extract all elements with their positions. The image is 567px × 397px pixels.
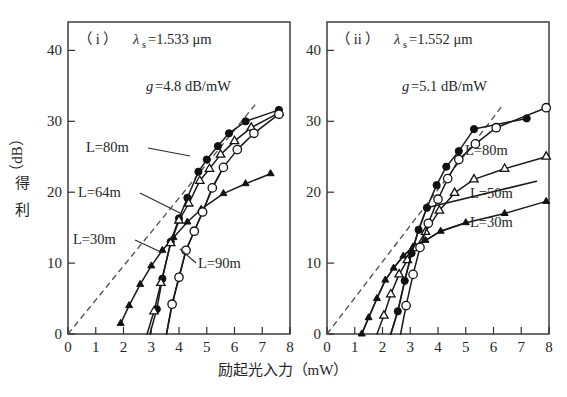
panel-2-xtick-1: 1 [351,339,359,355]
panel-1-y-ticks [68,50,75,334]
panel-2-slope-value: =5.1 dB/mW [411,78,487,94]
panel-2-lambda-subscript: s [403,39,407,50]
panel-1-lambda-subscript: s [142,39,146,50]
panel-1-xtick-4: 4 [175,339,183,355]
panel-2-frame [327,22,549,334]
panel-2-ytick-10: 10 [306,255,321,271]
panel-1-ytick-10: 10 [47,255,62,271]
panel-1-xtick-7: 7 [259,339,267,355]
panel-2-xtick-2: 2 [379,339,387,355]
panel-2-annotation-L80m: L=80m [465,142,509,158]
panel-1-ytick-0: 0 [55,326,63,342]
panel-2-y-ticks [327,50,334,334]
panel-1-gain-slope-line [68,103,257,334]
panel-1-id: （ i ） [78,31,117,47]
panel-1-annotation-L64m: L=64m [78,184,122,200]
panel-1-annotation-L90m: L=90m [198,255,242,271]
panel-1-leader-L80m [148,148,190,156]
panel-1-ytick-30: 30 [47,113,62,129]
panel-2-xtick-4: 4 [434,339,442,355]
panel-1-leader-L64m [140,193,182,214]
panel-1-series-L90m [167,110,284,334]
panel-2-xtick-3: 3 [407,339,415,355]
panel-2-annotation-L50m: L=50m [470,185,514,201]
panel-2-lambda-symbol: λ [393,31,400,47]
panel-1-ytick-20: 20 [47,184,62,200]
panel-1-series-L80m [147,108,283,334]
y-axis-title-unit: （dB） [9,131,25,179]
panel-1-xtick-5: 5 [203,339,211,355]
panel-2: 0 10 20 30 40 0 1 2 3 4 5 6 7 [306,22,553,355]
panel-1-xtick-8: 8 [286,339,294,355]
panel-1-slope-value: =4.8 dB/mW [155,78,231,94]
panel-2-ytick-40: 40 [306,42,321,58]
panel-2-id: （ ii ） [336,31,379,47]
panel-1-lambda-value: =1.533 μm [148,31,212,47]
gain-vs-pump-figure: 0 10 20 30 40 0 1 2 3 4 5 6 [0,0,567,397]
panel-1-lambda-symbol: λ [132,31,139,47]
panel-2-xtick-5: 5 [462,339,470,355]
panel-1-xtick-3: 3 [148,339,156,355]
x-axis-title: 励起光入力（mW） [218,362,349,378]
panel-1-xtick-1: 1 [92,339,100,355]
panel-2-xtick-6: 6 [490,339,498,355]
y-axis-title: 利 得 （dB） [9,131,30,218]
panel-1-xtick-6: 6 [231,339,239,355]
panel-1-ytick-40: 40 [47,42,62,58]
panel-2-lambda-value: =1.552 μm [409,31,473,47]
panel-1-xtick-0: 0 [64,339,72,355]
y-axis-title-char-1: 利 [15,202,30,218]
panel-2-xtick-0: 0 [323,339,331,355]
panel-2-ytick-0: 0 [314,326,322,342]
panel-1-slope-symbol: g [146,78,153,94]
panel-1-annotation-L80m: L=80m [86,139,130,155]
panel-2-ytick-20: 20 [306,184,321,200]
figure-root: 0 10 20 30 40 0 1 2 3 4 5 6 [0,0,567,397]
panel-1-frame [68,22,290,334]
panel-2-xtick-8: 8 [545,339,553,355]
panel-1-x-ticks [68,327,290,334]
panel-2-annotation-L30m: L=30m [470,214,514,230]
panel-1-series-L64m [150,106,283,334]
panel-2-xtick-7: 7 [518,339,526,355]
panel-2-slope-symbol: g [402,78,409,94]
panel-2-ytick-30: 30 [306,113,321,129]
panel-1: 0 10 20 30 40 0 1 2 3 4 5 6 [47,22,294,355]
panel-1-xtick-2: 2 [120,339,128,355]
panel-1-annotation-L30m: L=30m [73,231,117,247]
